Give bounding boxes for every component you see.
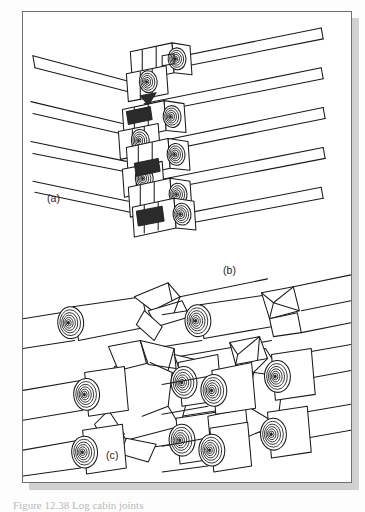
panel-label-a: (a) xyxy=(47,192,60,204)
scanned-page: .ln{fill:none;stroke:#1a1a1a;stroke-widt… xyxy=(0,0,365,512)
figure-plate: .ln{fill:none;stroke:#1a1a1a;stroke-widt… xyxy=(22,11,352,483)
figure-caption: Figure 12.38 Log cabin joints xyxy=(13,499,353,511)
panel-a-artwork xyxy=(31,28,325,237)
panel-label-b: (b) xyxy=(223,264,236,276)
figure-artwork: .ln{fill:none;stroke:#1a1a1a;stroke-widt… xyxy=(23,12,351,482)
panel-label-c: (c) xyxy=(106,449,119,461)
